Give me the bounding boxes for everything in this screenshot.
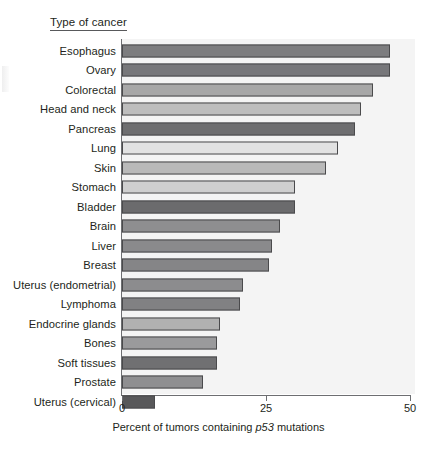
bar (122, 83, 373, 96)
bar-category-label: Brain (90, 220, 116, 232)
bar-category-label: Breast (83, 259, 116, 271)
bar (122, 298, 240, 311)
bar-row: Prostate (0, 373, 437, 393)
bar-row: Lung (0, 139, 437, 159)
bar-category-label: Stomach (72, 181, 117, 193)
x-axis-caption-part2: mutations (274, 421, 325, 433)
bar-row: Esophagus (0, 41, 437, 61)
bar-row: Liver (0, 236, 437, 256)
bar-category-label: Esophagus (60, 45, 116, 57)
bar-row: Breast (0, 256, 437, 276)
bar (122, 181, 295, 194)
bar-row: Bladder (0, 197, 437, 217)
bar (122, 239, 272, 252)
bar (122, 161, 326, 174)
bar-row: Soft tissues (0, 353, 437, 373)
bar-category-label: Endocrine glands (29, 318, 116, 330)
bar-category-label: Prostate (74, 376, 116, 388)
bar (122, 376, 203, 389)
bar-row: Ovary (0, 61, 437, 81)
x-axis-tick (122, 396, 123, 401)
bar-category-label: Uterus (endometrial) (13, 279, 116, 291)
category-axis-title: Type of cancer (50, 16, 127, 31)
x-axis-tick-label: 50 (390, 402, 430, 414)
bar-row: Bones (0, 334, 437, 354)
bar-row: Brain (0, 217, 437, 237)
bar-row: Skin (0, 158, 437, 178)
bar-row: Lymphoma (0, 295, 437, 315)
x-axis-caption: Percent of tumors containing p53 mutatio… (0, 421, 437, 433)
bar (122, 259, 269, 272)
bar (122, 64, 390, 77)
bar-category-label: Bladder (77, 201, 116, 213)
bar (122, 103, 361, 116)
bar-category-label: Lung (91, 142, 116, 154)
bar-row: Colorectal (0, 80, 437, 100)
bar-row: Uterus (endometrial) (0, 275, 437, 295)
bar-row: Stomach (0, 178, 437, 198)
bar-category-label: Skin (94, 162, 116, 174)
bar-category-label: Head and neck (40, 103, 116, 115)
bar-row: Endocrine glands (0, 314, 437, 334)
x-axis-tick-label: 0 (102, 402, 142, 414)
bar (122, 317, 220, 330)
bar (122, 142, 338, 155)
bar-category-label: Ovary (86, 64, 116, 76)
bar (122, 337, 217, 350)
x-axis-tick (266, 396, 267, 401)
bar-category-label: Liver (92, 240, 117, 252)
bar (122, 356, 217, 369)
bar (122, 122, 355, 135)
bar (122, 44, 390, 57)
bar-category-label: Soft tissues (58, 357, 116, 369)
x-axis-tick-label: 25 (246, 402, 286, 414)
bar-category-label: Pancreas (68, 123, 116, 135)
bar (122, 278, 243, 291)
bar-row: Pancreas (0, 119, 437, 139)
bar (122, 200, 295, 213)
bar-category-label: Bones (84, 337, 116, 349)
bar (122, 220, 280, 233)
bar-row: Head and neck (0, 100, 437, 120)
x-axis-caption-italic: p53 (255, 421, 273, 433)
bar-chart-figure: Type of cancer EsophagusOvaryColorectalH… (0, 0, 437, 458)
bar-category-label: Colorectal (65, 84, 116, 96)
x-axis-tick (410, 396, 411, 401)
bar-category-label: Lymphoma (61, 298, 116, 310)
x-axis-caption-part1: Percent of tumors containing (112, 421, 255, 433)
bar-row: Uterus (cervical) (0, 392, 437, 412)
